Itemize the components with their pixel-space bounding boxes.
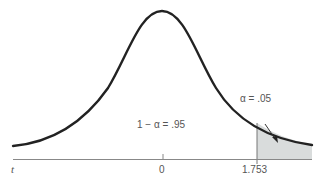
- tick-label-zero: 0: [159, 164, 165, 175]
- tail-area-annotation: α = .05: [240, 93, 271, 104]
- clipped-caption: [8, 181, 118, 185]
- tick-label-critical: 1.753: [242, 164, 267, 175]
- rejection-region-shade: [257, 123, 312, 160]
- t-axis-label: t: [11, 163, 14, 175]
- t-distribution-figure: t 0 1.753 1 − α = .95 α = .05: [0, 0, 325, 185]
- t-distribution-plot: [0, 0, 325, 185]
- center-area-annotation: 1 − α = .95: [137, 119, 185, 130]
